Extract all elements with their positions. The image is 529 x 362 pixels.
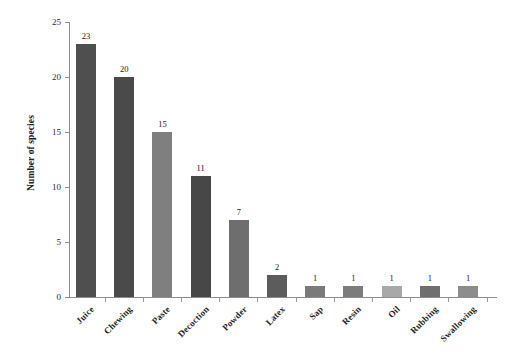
plot-area: 0510152025 232015117211111 JuiceChewingP… — [69, 22, 497, 297]
x-axis-category-label-text: Swallowing — [438, 304, 478, 344]
x-axis-category-label-text: Latex — [264, 304, 287, 327]
bar-value-label: 20 — [120, 64, 129, 74]
x-axis-category-label-text: Decoction — [175, 304, 210, 339]
bar-chart-figure: Number of species 0510152025 23201511721… — [0, 0, 529, 362]
bar-value-label: 1 — [351, 273, 355, 283]
y-axis-tick-label: 15 — [35, 127, 61, 137]
bar: 20 — [114, 77, 134, 297]
y-axis-line — [69, 22, 70, 297]
bar-value-label: 23 — [82, 31, 91, 41]
bar-value-label: 1 — [389, 273, 393, 283]
x-axis-category-label-text: Paste — [150, 304, 172, 326]
x-axis-category-label-text: Rubbing — [408, 304, 440, 336]
y-axis-tick-label: 25 — [35, 17, 61, 27]
bar-value-label: 1 — [466, 273, 470, 283]
y-axis-tick — [65, 187, 69, 188]
x-axis-category-label-text: Juice — [74, 304, 96, 326]
y-axis-tick — [65, 77, 69, 78]
y-axis-tick — [65, 132, 69, 133]
bar: 15 — [152, 132, 172, 297]
bar-value-label: 7 — [237, 207, 241, 217]
y-axis-tick-label: 10 — [35, 182, 61, 192]
bar: 2 — [267, 275, 287, 297]
bar-value-label: 15 — [158, 119, 167, 129]
bar: 1 — [305, 286, 325, 297]
bar: 23 — [76, 44, 96, 297]
x-axis-category-label-text: Powder — [220, 304, 249, 333]
bar-value-label: 2 — [275, 262, 279, 272]
bar: 1 — [343, 286, 363, 297]
y-axis-tick — [65, 297, 69, 298]
bar-value-label: 1 — [313, 273, 317, 283]
y-axis-tick-label: 5 — [35, 237, 61, 247]
bar: 1 — [420, 286, 440, 297]
x-axis-category-label-text: Oil — [386, 304, 402, 320]
x-axis-category-label-text: Resin — [340, 304, 363, 327]
y-axis-tick — [65, 22, 69, 23]
bar-value-label: 11 — [197, 163, 205, 173]
bar: 11 — [191, 176, 211, 297]
bar: 1 — [382, 286, 402, 297]
bar-value-label: 1 — [428, 273, 432, 283]
y-axis-tick-label: 20 — [35, 72, 61, 82]
y-axis-tick-label: 0 — [35, 292, 61, 302]
x-axis-category-label-text: Chewing — [102, 304, 134, 336]
y-axis-tick — [65, 242, 69, 243]
x-axis-category-label-text: Sap — [307, 304, 325, 322]
y-axis-title: Number of species — [26, 78, 36, 228]
